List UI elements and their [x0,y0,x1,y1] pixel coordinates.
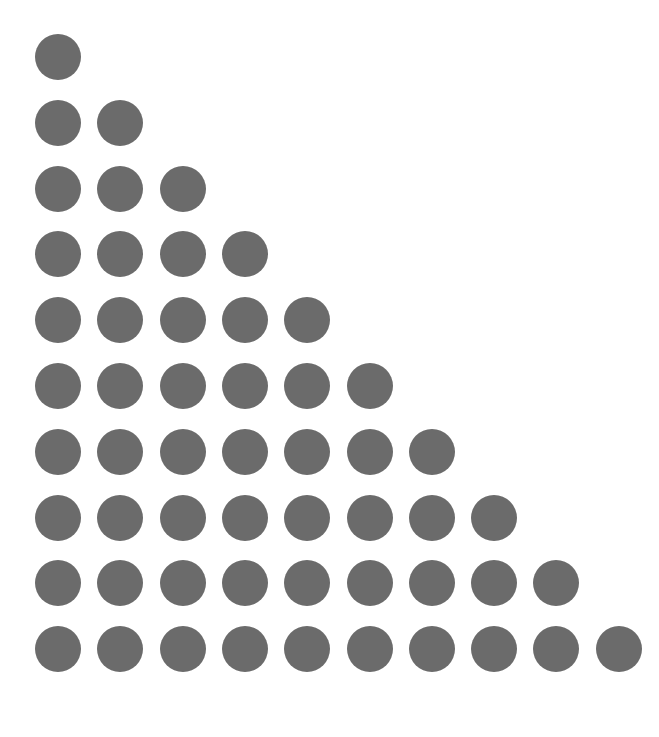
dot [471,626,517,672]
dot [222,495,268,541]
dot [284,297,330,343]
dot [471,495,517,541]
dot [160,231,206,277]
dot [409,560,455,606]
dot [409,495,455,541]
dot [409,429,455,475]
dot [533,626,579,672]
dot [284,560,330,606]
dot [35,34,81,80]
dot [347,429,393,475]
dot [347,626,393,672]
dot [35,560,81,606]
dot [284,429,330,475]
dot [222,626,268,672]
dot [97,363,143,409]
dot [160,363,206,409]
dot [97,166,143,212]
dot [160,166,206,212]
dot [35,297,81,343]
dot [160,626,206,672]
dot [35,231,81,277]
dot [222,429,268,475]
dot [284,363,330,409]
dot [222,297,268,343]
dot [97,626,143,672]
dot [596,626,642,672]
dot [222,560,268,606]
dot [533,560,579,606]
dot [97,231,143,277]
dot [97,495,143,541]
dot [35,100,81,146]
dot [35,495,81,541]
dot [35,166,81,212]
dot [35,626,81,672]
dot [97,429,143,475]
dot [97,297,143,343]
dot [347,560,393,606]
dot [97,100,143,146]
dot [160,297,206,343]
dot [160,560,206,606]
dot [222,231,268,277]
dot [471,560,517,606]
dot [347,363,393,409]
dot [284,495,330,541]
dot [222,363,268,409]
dot [160,429,206,475]
dot [347,495,393,541]
dot [97,560,143,606]
dot [160,495,206,541]
dot [35,429,81,475]
dot [35,363,81,409]
dot [409,626,455,672]
dot [284,626,330,672]
